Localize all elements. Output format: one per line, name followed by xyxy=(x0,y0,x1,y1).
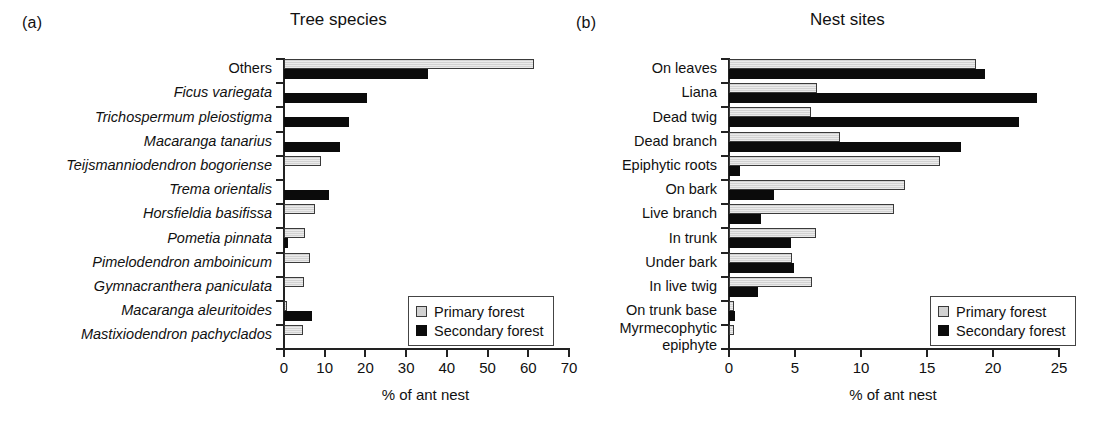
x-axis-tick-label: 25 xyxy=(1051,359,1068,376)
y-axis-tick xyxy=(721,58,728,60)
y-axis-tick xyxy=(276,82,283,84)
category-label: In live twig xyxy=(649,279,717,294)
bar-primary-forest xyxy=(729,301,734,311)
bar-secondary-forest xyxy=(284,238,288,248)
panel-b-plot-area: 0510152025% of ant nestOn leavesLianaDea… xyxy=(550,0,1100,429)
legend: Primary forestSecondary forest xyxy=(930,296,1076,346)
y-axis-tick xyxy=(276,203,283,205)
legend-label-secondary-forest: Secondary forest xyxy=(434,323,544,339)
category-label: Macaranga tanarius xyxy=(144,134,272,149)
y-axis-tick xyxy=(276,300,283,302)
category-label: On bark xyxy=(665,182,717,197)
bar-primary-forest xyxy=(284,301,287,311)
y-axis-tick xyxy=(721,82,728,84)
category-label: Myrmecophytic epiphyte xyxy=(605,320,717,352)
y-axis-tick xyxy=(276,324,283,326)
bar-secondary-forest xyxy=(729,263,794,273)
panel-b: (b) Nest sites 0510152025% of ant nestOn… xyxy=(550,0,1100,429)
x-axis-tick-label: 40 xyxy=(439,359,456,376)
y-axis-tick xyxy=(276,58,283,60)
bar-secondary-forest xyxy=(729,190,774,200)
bar-primary-forest xyxy=(729,83,817,93)
x-axis-tick xyxy=(527,350,529,357)
y-axis-tick xyxy=(721,252,728,254)
legend-item-primary-forest: Primary forest xyxy=(938,302,1066,321)
x-axis-title: % of ant nest xyxy=(382,386,470,403)
bar-primary-forest xyxy=(729,228,816,238)
category-label: In trunk xyxy=(669,231,717,246)
y-axis-tick xyxy=(276,179,283,181)
bar-secondary-forest xyxy=(729,93,1037,103)
y-axis-tick xyxy=(721,227,728,229)
y-axis-tick xyxy=(276,252,283,254)
x-axis-tick-label: 20 xyxy=(357,359,374,376)
bar-primary-forest xyxy=(284,253,310,263)
category-label: Liana xyxy=(682,85,717,100)
legend: Primary forestSecondary forest xyxy=(408,296,554,346)
x-axis-tick-label: 5 xyxy=(791,359,799,376)
y-axis-tick xyxy=(276,106,283,108)
x-axis-tick xyxy=(860,350,862,357)
category-label: Dead twig xyxy=(653,110,717,125)
x-axis-title: % of ant nest xyxy=(849,386,937,403)
legend-label-primary-forest: Primary forest xyxy=(956,304,1046,320)
category-label: Trichospermum pleiostigma xyxy=(95,110,272,125)
y-axis-tick xyxy=(721,203,728,205)
x-axis-tick xyxy=(446,350,448,357)
category-label: Pometia pinnata xyxy=(167,231,272,246)
y-axis-tick xyxy=(721,155,728,157)
y-axis-tick xyxy=(721,300,728,302)
x-axis-tick-label: 60 xyxy=(520,359,537,376)
y-axis-tick xyxy=(721,276,728,278)
panel-a: (a) Tree species 010203040506070% of ant… xyxy=(0,0,550,429)
category-label: Ficus variegata xyxy=(174,85,272,100)
y-axis-tick xyxy=(721,348,728,350)
y-axis-tick xyxy=(276,227,283,229)
bar-primary-forest xyxy=(284,228,305,238)
x-axis-tick xyxy=(487,350,489,357)
x-axis-tick-label: 10 xyxy=(316,359,333,376)
bar-secondary-forest xyxy=(729,214,761,224)
bar-primary-forest xyxy=(284,204,315,214)
bar-primary-forest xyxy=(729,180,905,190)
x-axis-tick xyxy=(992,350,994,357)
bar-secondary-forest xyxy=(284,311,312,321)
x-axis-tick xyxy=(283,350,285,357)
bar-secondary-forest xyxy=(284,142,340,152)
panel-a-plot-area: 010203040506070% of ant nestOthersFicus … xyxy=(0,0,550,429)
legend-item-secondary-forest: Secondary forest xyxy=(416,321,544,340)
bar-secondary-forest xyxy=(284,117,349,127)
bar-primary-forest xyxy=(729,253,792,263)
bar-primary-forest xyxy=(729,277,812,287)
category-label: Teijsmanniodendron bogoriense xyxy=(66,158,272,173)
bar-secondary-forest xyxy=(729,287,758,297)
x-axis-tick-label: 20 xyxy=(985,359,1002,376)
bar-secondary-forest xyxy=(729,142,961,152)
bar-primary-forest xyxy=(284,156,321,166)
category-label: Under bark xyxy=(645,255,717,270)
x-axis-tick xyxy=(794,350,796,357)
legend-item-primary-forest: Primary forest xyxy=(416,302,544,321)
bar-primary-forest xyxy=(284,277,304,287)
x-axis-tick xyxy=(324,350,326,357)
category-label: Others xyxy=(228,61,272,76)
x-axis-tick-label: 10 xyxy=(853,359,870,376)
primary-forest-swatch-icon xyxy=(938,306,949,317)
legend-label-primary-forest: Primary forest xyxy=(434,304,524,320)
x-axis-tick xyxy=(728,350,730,357)
secondary-forest-swatch-icon xyxy=(938,325,949,336)
bar-secondary-forest xyxy=(729,311,735,321)
x-axis-tick xyxy=(364,350,366,357)
bar-secondary-forest xyxy=(729,166,740,176)
category-label: On leaves xyxy=(652,61,717,76)
y-axis-tick xyxy=(276,131,283,133)
y-axis-tick xyxy=(276,348,283,350)
bar-primary-forest xyxy=(729,59,976,69)
bar-primary-forest xyxy=(729,132,840,142)
bar-primary-forest xyxy=(729,107,811,117)
y-axis-tick xyxy=(721,179,728,181)
bar-primary-forest xyxy=(729,156,940,166)
bar-primary-forest xyxy=(729,325,734,335)
x-axis-tick xyxy=(1058,350,1060,357)
y-axis-tick xyxy=(721,324,728,326)
